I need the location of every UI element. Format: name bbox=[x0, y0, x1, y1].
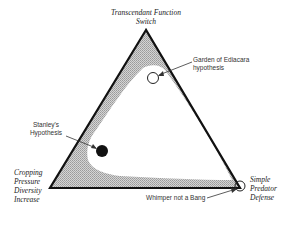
garden-of-ediacara-marker bbox=[148, 73, 159, 84]
vertex-bl-line-4: Increase bbox=[14, 195, 42, 204]
vertex-top-line-2: Switch bbox=[96, 17, 196, 26]
stanley-label-line-2: Hypothesis bbox=[26, 129, 66, 137]
white-interior-region bbox=[87, 65, 232, 180]
stanley-label-line-1: Stanley's bbox=[26, 121, 66, 129]
vertex-bl-line-1: Cropping bbox=[14, 168, 42, 177]
vertex-bl-line-2: Pressure bbox=[14, 177, 42, 186]
garden-label-line-2: hypothesis bbox=[193, 64, 249, 72]
vertex-br-line-3: Defense bbox=[250, 193, 277, 202]
vertex-top-line-1: Transcendant Function bbox=[96, 8, 196, 17]
garden-label-line-1: Garden of Ediacara bbox=[193, 56, 249, 64]
whimper-not-a-bang-label: Whimper not a Bang bbox=[146, 194, 205, 202]
garden-of-ediacara-label: Garden of Ediacara hypothesis bbox=[193, 56, 249, 72]
vertex-label-top: Transcendant Function Switch bbox=[96, 8, 196, 26]
vertex-br-line-2: Predator bbox=[250, 184, 277, 193]
stanleys-hypothesis-marker bbox=[96, 145, 108, 157]
vertex-label-bottom-right: Simple Predator Defense bbox=[250, 175, 277, 202]
vertex-label-bottom-left: Cropping Pressure Diversity Increase bbox=[14, 168, 42, 204]
vertex-br-line-1: Simple bbox=[250, 175, 277, 184]
stanleys-hypothesis-label: Stanley's Hypothesis bbox=[26, 121, 66, 137]
vertex-bl-line-3: Diversity bbox=[14, 186, 42, 195]
whimper-label-line-1: Whimper not a Bang bbox=[146, 194, 205, 202]
